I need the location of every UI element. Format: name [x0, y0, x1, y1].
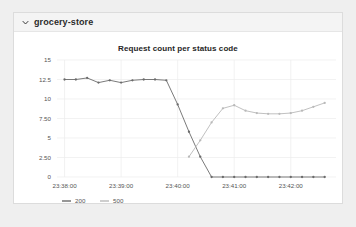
data-point-200[interactable]: [143, 78, 145, 80]
x-axis-tick-label: 23:42:00: [279, 182, 304, 189]
x-axis-tick-label: 23:38:00: [52, 182, 77, 189]
grocery-store-panel: grocery-store Request count per status c…: [13, 12, 343, 204]
panel-title: grocery-store: [34, 18, 93, 27]
data-point-200[interactable]: [324, 176, 326, 178]
data-point-200[interactable]: [267, 176, 269, 178]
y-axis-tick-label: 5: [48, 134, 52, 141]
data-point-200[interactable]: [278, 176, 280, 178]
data-point-500[interactable]: [188, 156, 190, 158]
series-line-200: [65, 78, 325, 177]
y-axis-tick-label: 12.5: [39, 76, 52, 83]
data-point-200[interactable]: [256, 176, 258, 178]
data-point-200[interactable]: [290, 176, 292, 178]
data-point-500[interactable]: [233, 104, 235, 106]
data-point-500[interactable]: [278, 113, 280, 115]
data-point-200[interactable]: [233, 176, 235, 178]
data-point-200[interactable]: [222, 176, 224, 178]
chevron-down-icon[interactable]: [21, 18, 30, 27]
legend-label-500[interactable]: 500: [113, 197, 124, 204]
data-point-500[interactable]: [210, 121, 212, 123]
data-point-200[interactable]: [120, 81, 122, 83]
panel-header[interactable]: grocery-store: [14, 13, 342, 32]
y-axis-tick-label: 0: [48, 173, 52, 180]
y-axis-tick-label: 10: [44, 95, 51, 102]
data-point-200[interactable]: [75, 78, 77, 80]
x-axis-tick-label: 23:41:00: [222, 182, 247, 189]
data-point-200[interactable]: [188, 131, 190, 133]
data-point-200[interactable]: [199, 156, 201, 158]
data-point-200[interactable]: [312, 176, 314, 178]
series-line-500: [189, 103, 325, 157]
data-point-500[interactable]: [256, 112, 258, 114]
data-point-200[interactable]: [97, 81, 99, 83]
data-point-200[interactable]: [210, 176, 212, 178]
chart-plot-area[interactable]: 02.5057.501012.51523:38:0023:39:0023:40:…: [14, 32, 344, 204]
data-point-200[interactable]: [154, 78, 156, 80]
data-point-200[interactable]: [244, 176, 246, 178]
data-point-500[interactable]: [199, 139, 201, 141]
legend-label-200[interactable]: 200: [75, 197, 86, 204]
data-point-200[interactable]: [177, 103, 179, 105]
data-point-200[interactable]: [131, 79, 133, 81]
y-axis-tick-label: 7.50: [39, 115, 52, 122]
data-point-500[interactable]: [324, 102, 326, 104]
chart-body: Request count per status code 02.5057.50…: [14, 32, 342, 204]
data-point-500[interactable]: [244, 110, 246, 112]
line-chart-svg[interactable]: 02.5057.501012.51523:38:0023:39:0023:40:…: [14, 32, 344, 204]
data-point-500[interactable]: [301, 110, 303, 112]
data-point-200[interactable]: [301, 176, 303, 178]
screen-root: grocery-store Request count per status c…: [0, 0, 356, 227]
data-point-200[interactable]: [165, 79, 167, 81]
data-point-200[interactable]: [109, 79, 111, 81]
data-point-200[interactable]: [86, 77, 88, 79]
y-axis-tick-label: 2.50: [39, 154, 52, 161]
data-point-500[interactable]: [312, 106, 314, 108]
y-axis-tick-label: 15: [44, 56, 51, 63]
data-point-500[interactable]: [267, 113, 269, 115]
x-axis-tick-label: 23:40:00: [166, 182, 191, 189]
data-point-500[interactable]: [222, 107, 224, 109]
data-point-500[interactable]: [290, 112, 292, 114]
x-axis-tick-label: 23:39:00: [109, 182, 134, 189]
data-point-200[interactable]: [63, 78, 65, 80]
